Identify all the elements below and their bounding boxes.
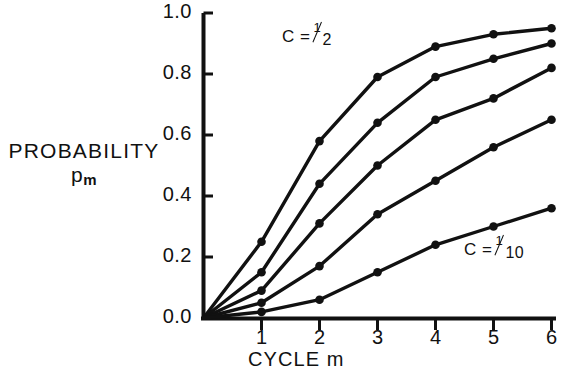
fraction-denominator: 10: [505, 244, 524, 262]
y-tick-label: 0.0: [140, 305, 192, 328]
curve-line: [204, 68, 552, 318]
data-point-marker: [373, 210, 382, 219]
data-point-marker: [315, 180, 324, 189]
x-axis-title: CYCLE m: [248, 348, 345, 371]
data-point-marker: [547, 204, 556, 213]
fraction-denominator: 2: [322, 31, 331, 49]
data-point-marker: [257, 286, 266, 295]
annotation-prefix: C =: [282, 27, 310, 46]
fraction-one-half: 12: [313, 26, 337, 46]
y-axis-title-symbol: p: [71, 163, 83, 186]
x-tick-label: 5: [484, 326, 504, 349]
curve-line: [204, 208, 552, 318]
data-point-marker: [373, 119, 382, 128]
data-point-marker: [257, 238, 266, 247]
data-point-marker: [315, 219, 324, 228]
x-tick-label: 4: [426, 326, 446, 349]
curve-annotation-c-one-tenth: C =110: [464, 239, 527, 260]
data-point-marker: [489, 222, 498, 231]
x-tick-label: 6: [542, 326, 562, 349]
fraction-numerator: 1: [313, 20, 321, 35]
curve-line: [204, 120, 552, 318]
data-point-marker: [257, 268, 266, 277]
data-point-marker: [373, 73, 382, 82]
data-point-marker: [489, 30, 498, 39]
y-tick-label: 0.6: [140, 122, 192, 145]
y-tick-label: 0.8: [140, 61, 192, 84]
y-tick-label: 0.2: [140, 244, 192, 267]
data-point-marker: [257, 299, 266, 308]
y-axis-title-subscript: m: [83, 171, 97, 188]
data-point-marker: [431, 73, 440, 82]
curve-annotation-c-one-half: C =12: [282, 26, 337, 47]
y-axis-title: PROBABILITY pm: [8, 140, 160, 188]
data-point-marker: [373, 268, 382, 277]
fraction-one-tenth: 110: [495, 239, 527, 259]
y-axis-title-line2: pm: [8, 164, 160, 188]
x-tick-label: 2: [310, 326, 330, 349]
plot-canvas: [0, 0, 573, 379]
data-point-marker: [257, 308, 266, 317]
chart-figure: PROBABILITY pm CYCLE m 1.00.80.60.40.20.…: [0, 0, 573, 379]
data-point-marker: [315, 295, 324, 304]
curve-line: [204, 44, 552, 319]
data-point-marker: [547, 64, 556, 73]
data-point-marker: [547, 39, 556, 48]
x-tick-label: 3: [368, 326, 388, 349]
y-axis-title-line1: PROBABILITY: [8, 140, 160, 162]
data-point-marker: [431, 116, 440, 125]
annotation-prefix: C =: [464, 240, 492, 259]
axis-ticks: [204, 13, 552, 330]
data-point-marker: [315, 137, 324, 146]
data-point-marker: [373, 161, 382, 170]
data-point-marker: [431, 177, 440, 186]
data-point-marker: [547, 116, 556, 125]
y-tick-label: 1.0: [140, 0, 192, 23]
data-point-marker: [489, 94, 498, 103]
data-point-marker: [489, 55, 498, 64]
fraction-numerator: 1: [495, 233, 503, 248]
data-point-marker: [431, 42, 440, 51]
x-tick-label: 1: [252, 326, 272, 349]
data-point-marker: [489, 143, 498, 152]
data-point-marker: [547, 24, 556, 33]
y-tick-label: 0.4: [140, 183, 192, 206]
data-point-marker: [431, 241, 440, 250]
data-point-marker: [315, 262, 324, 271]
